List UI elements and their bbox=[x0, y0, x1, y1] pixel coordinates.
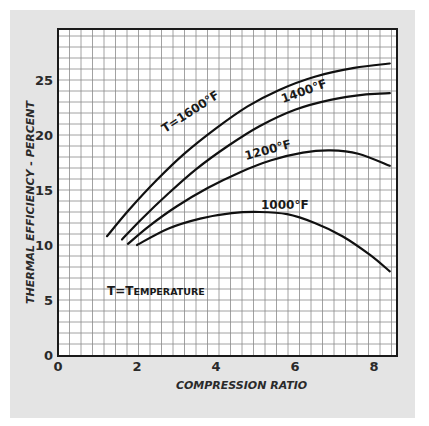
y-tick-label: 0 bbox=[44, 348, 53, 363]
x-tick-label: 2 bbox=[132, 359, 141, 374]
y-tick-label: 20 bbox=[35, 128, 53, 143]
x-tick-label: 8 bbox=[369, 359, 378, 374]
y-tick-label: 15 bbox=[35, 183, 53, 198]
x-tick-label: 0 bbox=[53, 359, 62, 374]
line-chart: 051015202502468COMPRESSION RATIOTHERMAL … bbox=[0, 0, 429, 426]
y-tick-label: 25 bbox=[35, 73, 53, 88]
x-axis-label: COMPRESSION RATIO bbox=[176, 379, 307, 392]
x-tick-label: 4 bbox=[211, 359, 220, 374]
y-axis-label: THERMAL EFFICIENCY - PERCENT bbox=[24, 99, 37, 304]
x-tick-label: 6 bbox=[290, 359, 299, 374]
y-tick-label: 10 bbox=[35, 238, 53, 253]
temperature-legend-note: T=TEMPERATURE bbox=[107, 284, 205, 298]
y-tick-label: 5 bbox=[44, 293, 53, 308]
curve-label: 1000°F bbox=[261, 198, 309, 212]
plot-area bbox=[58, 29, 397, 356]
